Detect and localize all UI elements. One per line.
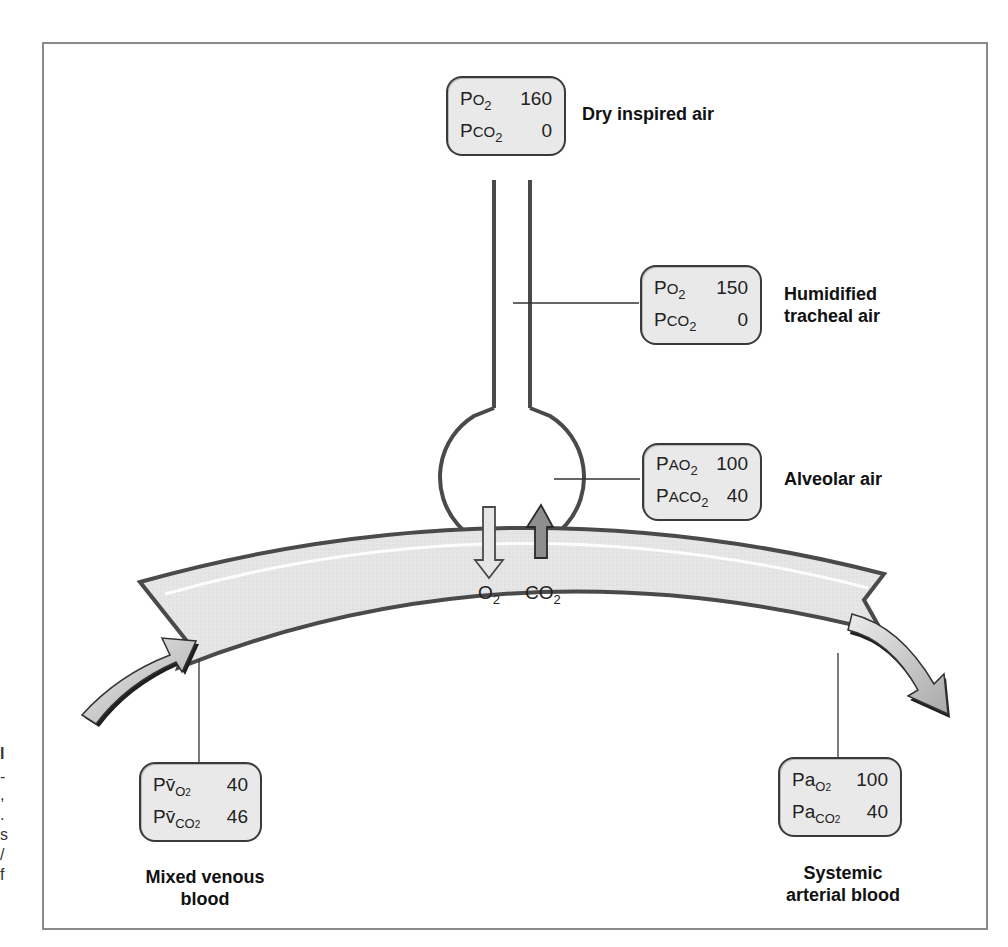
pao2-value: 100 — [856, 769, 888, 791]
mixed-venous-blood-box: Pv̄O2 40 Pv̄CO2 46 — [139, 762, 262, 842]
arterial-outflow-arrow — [848, 614, 950, 718]
alveolar-air-caption: Alveolar air — [784, 468, 882, 490]
pvo2-value: 40 — [227, 774, 248, 796]
humidified-tracheal-air-box: PO2 150 PCO2 0 — [640, 265, 762, 345]
trachea — [494, 180, 530, 408]
co2-label: CO2 — [525, 582, 561, 607]
alveolar-air-box: PAO2 100 PACO2 40 — [642, 443, 762, 521]
pao2-value: 100 — [716, 453, 748, 475]
pvo2-row: Pv̄O2 40 — [153, 774, 248, 800]
pvco2-value: 46 — [227, 806, 248, 828]
humidified-tracheal-air-caption: Humidified tracheal air — [784, 283, 880, 327]
po2-label: P — [460, 88, 473, 109]
paco2-value: 40 — [727, 485, 748, 507]
paco2-row: PACO2 40 — [656, 485, 748, 511]
pco2-row: PCO2 0 — [654, 309, 748, 335]
paco2-row: PaCO2 40 — [792, 801, 888, 827]
pvco2-row: Pv̄CO2 46 — [153, 806, 248, 832]
systemic-arterial-blood-box: PaO2 100 PaCO2 40 — [778, 757, 902, 837]
pao2-row: PaO2 100 — [792, 769, 888, 795]
dry-inspired-air-box: PO2 160 PCO2 0 — [446, 76, 566, 156]
pco2-value: 0 — [541, 120, 552, 142]
po2-value: 160 — [520, 88, 552, 110]
po2-row: PO2 150 — [654, 277, 748, 303]
pao2-row: PAO2 100 — [656, 453, 748, 479]
pco2-row: PCO2 0 — [460, 120, 552, 146]
dry-inspired-air-caption: Dry inspired air — [582, 103, 714, 125]
mixed-venous-blood-caption: Mixed venous blood — [120, 866, 290, 910]
venous-inflow-arrow — [82, 638, 199, 727]
paco2-value: 40 — [867, 801, 888, 823]
systemic-arterial-blood-caption: Systemic arterial blood — [758, 862, 928, 906]
pco2-value: 0 — [737, 309, 748, 331]
o2-label: O2 — [478, 582, 500, 607]
po2-value: 150 — [716, 277, 748, 299]
pulmonary-capillary — [140, 528, 884, 668]
po2-row: PO2 160 — [460, 88, 552, 114]
pco2-label: P — [460, 120, 473, 141]
